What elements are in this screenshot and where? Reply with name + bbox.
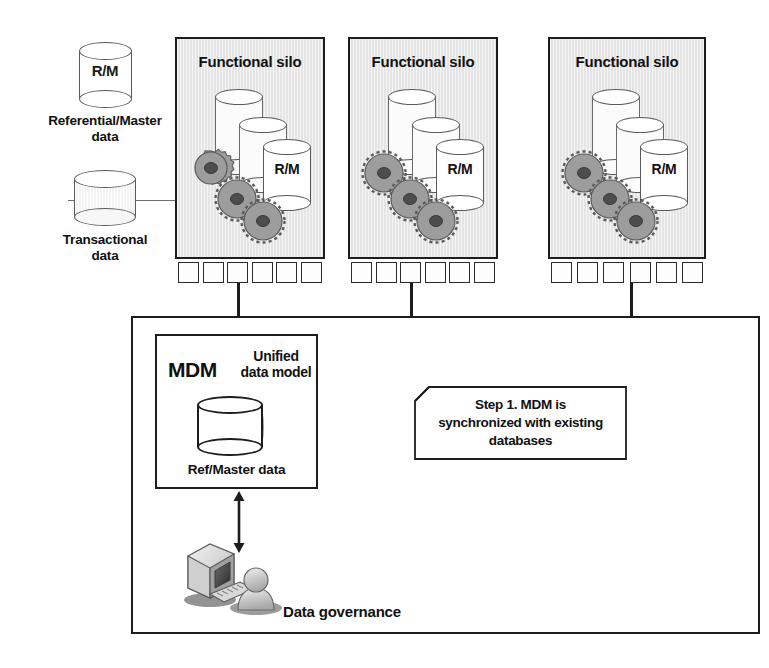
mdm-box[interactable]: MDM Unified data model Ref/Master data bbox=[155, 334, 318, 489]
legend-item-label: Referential/Master data bbox=[30, 113, 180, 145]
functional-silo[interactable]: Functional silo R/M bbox=[548, 37, 706, 259]
mdm-title: MDM bbox=[168, 358, 217, 382]
connector-tab bbox=[474, 262, 495, 283]
silo-connector-line bbox=[410, 283, 413, 317]
gears-icon bbox=[185, 147, 293, 245]
functional-silo[interactable]: Functional silo R/M bbox=[175, 37, 325, 259]
connector-tab bbox=[682, 262, 703, 283]
mdm-cylinder-icon bbox=[197, 396, 263, 456]
connector-tab bbox=[603, 262, 624, 283]
legend-item-referential-master: R/M Referential/Master data bbox=[30, 42, 180, 145]
connector-tab bbox=[276, 262, 297, 283]
functional-silo[interactable]: Functional silo R/M bbox=[348, 37, 498, 259]
connector-tab bbox=[425, 262, 446, 283]
connector-tab bbox=[203, 262, 224, 283]
silo-connector-tabs bbox=[351, 262, 495, 283]
functional-silo-title: Functional silo bbox=[350, 53, 496, 70]
legend-item-label: Transactional data bbox=[30, 232, 180, 264]
mdm-subtitle: Unified data model bbox=[235, 348, 317, 380]
cylinder-icon: R/M bbox=[79, 42, 132, 108]
silo-connector-line bbox=[630, 283, 633, 317]
cylinder-icon bbox=[74, 170, 136, 226]
functional-silo-title: Functional silo bbox=[177, 53, 323, 70]
connector-tab bbox=[400, 262, 421, 283]
connector-tab bbox=[449, 262, 470, 283]
gears-icon bbox=[358, 147, 466, 245]
data-governance-label: Data governance bbox=[283, 603, 401, 620]
step-callout: Step 1. MDM is synchronized with existin… bbox=[414, 386, 627, 460]
step-callout-text: Step 1. MDM is synchronized with existin… bbox=[414, 386, 627, 460]
cylinder-icon-label: R/M bbox=[79, 62, 132, 79]
diagram-canvas: R/M Referential/Master data Transactiona… bbox=[0, 0, 769, 668]
gears-icon bbox=[558, 147, 666, 245]
connector-tab bbox=[656, 262, 677, 283]
mdm-cylinder-caption: Ref/Master data bbox=[157, 462, 316, 477]
connector-tab bbox=[301, 262, 322, 283]
legend-item-transactional: Transactional data bbox=[30, 170, 180, 264]
connector-tab bbox=[630, 262, 651, 283]
connector-tab bbox=[351, 262, 372, 283]
silo-connector-tabs bbox=[551, 262, 703, 283]
silo-connector-tabs bbox=[178, 262, 322, 283]
connector-tab bbox=[178, 262, 199, 283]
connector-tab bbox=[551, 262, 572, 283]
silo-connector-line bbox=[237, 283, 240, 317]
functional-silo-title: Functional silo bbox=[550, 53, 704, 70]
connector-tab bbox=[376, 262, 397, 283]
connector-tab bbox=[252, 262, 273, 283]
connector-tab bbox=[227, 262, 248, 283]
connector-tab bbox=[577, 262, 598, 283]
